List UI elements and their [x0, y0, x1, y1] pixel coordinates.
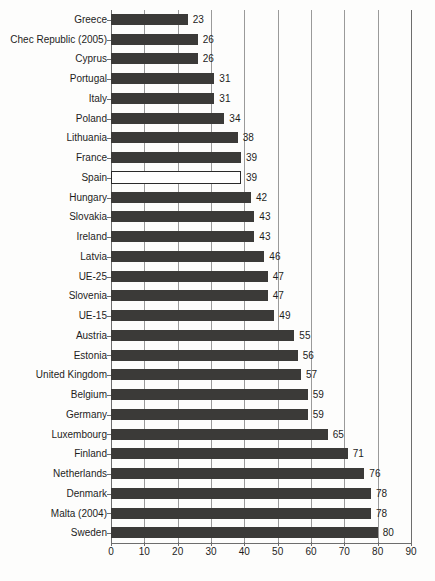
bar-row: 43: [111, 207, 412, 228]
bar-value-label: 39: [246, 169, 257, 186]
bar-value-label: 49: [279, 307, 290, 324]
bar-denmark: [111, 488, 371, 499]
bar-sweden: [111, 527, 378, 538]
bar-row: 46: [111, 247, 412, 268]
category-label: Cyprus: [0, 49, 107, 70]
category-label: Belgium: [0, 385, 107, 406]
bar-row: 76: [111, 464, 412, 485]
bar-finland: [111, 448, 348, 459]
bar-value-label: 59: [313, 386, 324, 403]
bar-row: 39: [111, 148, 412, 169]
category-label: United Kingdom: [0, 365, 107, 386]
bar-cyprus: [111, 53, 198, 64]
category-label: UE-25: [0, 267, 107, 288]
bar-row: 57: [111, 365, 412, 386]
bar-value-label: 65: [333, 426, 344, 443]
bar-row: 78: [111, 484, 412, 505]
bar-ue-25: [111, 271, 268, 282]
bar-value-label: 55: [299, 327, 310, 344]
category-label: Slovakia: [0, 207, 107, 228]
bar-row: 26: [111, 30, 412, 51]
bar-value-label: 43: [259, 208, 270, 225]
bar-value-label: 78: [376, 505, 387, 522]
bar-row: 31: [111, 89, 412, 110]
bar-row: 59: [111, 385, 412, 406]
bar-row: 38: [111, 128, 412, 149]
x-tick-label: 70: [339, 546, 350, 557]
bar-value-label: 34: [229, 110, 240, 127]
x-tick-label: 30: [205, 546, 216, 557]
category-label: Hungary: [0, 188, 107, 209]
bar-value-label: 47: [273, 287, 284, 304]
bar-series: 2326263131343839394243434647474955565759…: [111, 10, 412, 543]
bar-value-label: 43: [259, 228, 270, 245]
bar-germany: [111, 409, 308, 420]
x-tick-label: 80: [372, 546, 383, 557]
bar-value-label: 57: [306, 366, 317, 383]
bar-greece: [111, 14, 188, 25]
bar-row: 47: [111, 286, 412, 307]
bar-belgium: [111, 389, 308, 400]
category-label: Germany: [0, 405, 107, 426]
bar-italy: [111, 93, 214, 104]
bar-portugal: [111, 73, 214, 84]
category-label: Austria: [0, 326, 107, 347]
bar-ue-15: [111, 310, 274, 321]
category-label: Denmark: [0, 484, 107, 505]
category-label: Italy: [0, 89, 107, 110]
bar-value-label: 26: [203, 50, 214, 67]
bar-malta-2004: [111, 508, 371, 519]
category-label: Chec Republic (2005): [0, 30, 107, 51]
bar-row: 59: [111, 405, 412, 426]
bar-lithuania: [111, 132, 238, 143]
category-label: Greece: [0, 10, 107, 31]
bar-row: 55: [111, 326, 412, 347]
bar-row: 80: [111, 523, 412, 544]
bar-row: 78: [111, 504, 412, 525]
x-tick-label: 50: [272, 546, 283, 557]
bar-row: 23: [111, 10, 412, 31]
category-axis: GreeceChec Republic (2005)CyprusPortugal…: [0, 10, 107, 543]
bar-row: 26: [111, 49, 412, 70]
bar-france: [111, 152, 241, 163]
bar-hungary: [111, 192, 251, 203]
bar-value-label: 78: [376, 485, 387, 502]
bar-row: 47: [111, 267, 412, 288]
bar-chart: GreeceChec Republic (2005)CyprusPortugal…: [0, 0, 435, 581]
bar-value-label: 31: [219, 70, 230, 87]
category-label: Latvia: [0, 247, 107, 268]
bar-value-label: 59: [313, 406, 324, 423]
bar-austria: [111, 330, 294, 341]
bar-row: 71: [111, 444, 412, 465]
bar-row: 65: [111, 425, 412, 446]
bar-value-label: 39: [246, 149, 257, 166]
bar-value-label: 80: [383, 524, 394, 541]
bar-value-label: 31: [219, 90, 230, 107]
category-label: Sweden: [0, 523, 107, 544]
x-tick-label: 10: [139, 546, 150, 557]
bar-value-label: 23: [193, 11, 204, 28]
bar-spain: [111, 171, 241, 184]
bar-value-label: 38: [243, 129, 254, 146]
bar-row: 56: [111, 346, 412, 367]
bar-row: 42: [111, 188, 412, 209]
category-label: UE-15: [0, 306, 107, 327]
category-label: Slovenia: [0, 286, 107, 307]
x-tick-label: 60: [305, 546, 316, 557]
bar-united-kingdom: [111, 369, 301, 380]
x-tick-label: 40: [239, 546, 250, 557]
x-axis: 0102030405060708090: [111, 546, 412, 562]
category-label: Luxembourg: [0, 425, 107, 446]
bar-estonia: [111, 350, 298, 361]
x-tick-label: 90: [405, 546, 416, 557]
bar-row: 34: [111, 109, 412, 130]
category-label: Lithuania: [0, 128, 107, 149]
category-label: Spain: [0, 168, 107, 189]
x-tick-label: 0: [108, 546, 114, 557]
bar-netherlands: [111, 468, 364, 479]
bar-row: 39: [111, 168, 412, 189]
category-label: Portugal: [0, 69, 107, 90]
category-label: Finland: [0, 444, 107, 465]
bar-slovakia: [111, 211, 254, 222]
x-tick-label: 20: [172, 546, 183, 557]
